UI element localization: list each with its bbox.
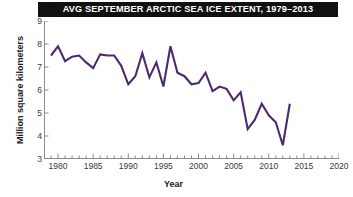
y-tick-label: 8 — [24, 40, 42, 49]
y-tick-label: 4 — [24, 132, 42, 141]
x-axis-label: Year — [0, 179, 347, 189]
y-tick-label: 5 — [24, 109, 42, 118]
x-axis-tick-labels: 198019851990199520002005201020152020 — [0, 162, 347, 174]
y-tick-label: 6 — [24, 86, 42, 95]
page-title: AVG SEPTEMBER ARCTIC SEA ICE EXTENT, 197… — [63, 5, 314, 14]
x-tick-label: 2005 — [214, 162, 254, 171]
chart-svg — [44, 21, 339, 159]
y-tick-label: 9 — [24, 17, 42, 26]
x-tick-label: 2015 — [284, 162, 324, 171]
axes — [44, 21, 339, 159]
x-tick-label: 1985 — [73, 162, 113, 171]
x-tick-label: 1980 — [38, 162, 78, 171]
x-tick-label: 2000 — [179, 162, 219, 171]
chart-title-banner: AVG SEPTEMBER ARCTIC SEA ICE EXTENT, 197… — [38, 2, 338, 17]
plot-area — [44, 21, 339, 159]
y-tick-label: 7 — [24, 63, 42, 72]
x-tick-label: 2020 — [319, 162, 353, 171]
axis-ticks — [44, 21, 339, 159]
x-tick-label: 1990 — [108, 162, 148, 171]
data-series-line — [51, 46, 290, 145]
x-tick-label: 1995 — [143, 162, 183, 171]
x-tick-label: 2010 — [249, 162, 289, 171]
